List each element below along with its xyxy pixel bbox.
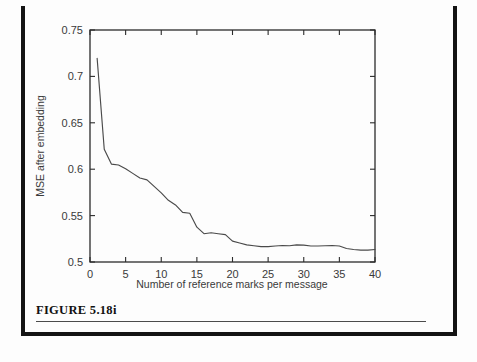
y-tick-label: 0.6 (68, 163, 83, 175)
y-axis-tick-labels: 0.50.550.60.650.70.75 (62, 24, 83, 268)
y-tick-label: 0.65 (62, 117, 83, 129)
y-tick-label: 0.7 (68, 70, 83, 82)
caption-divider-rule (36, 321, 426, 322)
y-tick-label: 0.5 (68, 256, 83, 268)
page-border-right (453, 6, 457, 336)
data-series-line (97, 58, 375, 250)
figure-caption: FIGURE 5.18i (36, 303, 117, 318)
page-border-left (21, 6, 25, 336)
x-tick-label: 35 (333, 268, 345, 280)
x-tick-label: 5 (123, 268, 129, 280)
plot-frame (90, 30, 375, 262)
line-chart: 0510152025303540 0.50.550.60.650.70.75 N… (28, 14, 438, 294)
y-tick-label: 0.75 (62, 24, 83, 36)
x-tick-label: 40 (369, 268, 381, 280)
page-border-bottom (21, 332, 457, 336)
x-axis-ticks (90, 30, 375, 262)
y-tick-label: 0.55 (62, 210, 83, 222)
x-axis-title: Number of reference marks per message (136, 278, 328, 290)
x-tick-label: 0 (87, 268, 93, 280)
y-axis-ticks (90, 30, 375, 262)
y-axis-title: MSE after embedding (34, 95, 46, 197)
figure-page: 0510152025303540 0.50.550.60.650.70.75 N… (0, 0, 477, 362)
chart-canvas: 0510152025303540 0.50.550.60.650.70.75 N… (28, 14, 438, 294)
